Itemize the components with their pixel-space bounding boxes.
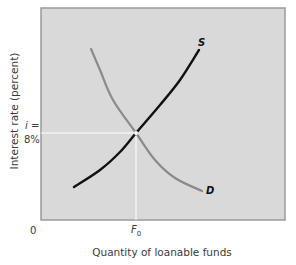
chart-canvas <box>0 0 296 265</box>
y-equilibrium-label-line1: i = <box>25 120 39 131</box>
plot-area <box>41 8 285 220</box>
x-equilibrium-label: F0 <box>131 224 141 238</box>
origin-label: 0 <box>30 225 36 236</box>
demand-curve-label: D <box>206 185 214 196</box>
y-axis-label: Interest rate (percent) <box>8 53 20 170</box>
supply-curve-label: S <box>198 37 205 48</box>
y-equilibrium-label-line2: 8% <box>24 134 40 145</box>
x-axis-label: Quantity of loanable funds <box>92 246 232 258</box>
equilibrium-point <box>134 131 138 135</box>
